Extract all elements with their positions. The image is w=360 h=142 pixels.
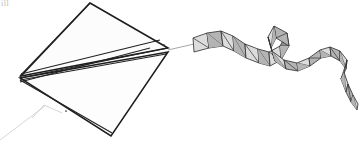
bridle-triangle xyxy=(32,105,62,118)
tail-facet-quad xyxy=(193,33,209,52)
corner-pencil-mark: ill xyxy=(1,0,9,8)
tail-facets-group xyxy=(193,26,358,110)
bridle-group xyxy=(32,105,62,118)
tail-attachment-group xyxy=(168,44,194,50)
drawing-canvas: ill xyxy=(0,0,360,142)
anchor-dot-right-lower xyxy=(165,53,167,55)
kite-illustration xyxy=(0,0,360,142)
tail-attachment-line xyxy=(168,44,194,50)
anchor-dot-keel xyxy=(65,110,67,112)
anchor-dot-right-upper xyxy=(163,44,165,46)
kite-sail-group xyxy=(20,3,168,136)
